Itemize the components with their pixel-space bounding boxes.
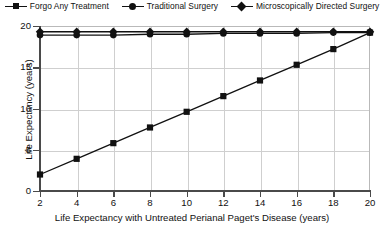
x-tick-label: 16 [284, 197, 310, 208]
x-tick-label: 10 [174, 197, 200, 208]
x-tick-label: 2 [27, 197, 53, 208]
x-tick-label: 12 [210, 197, 236, 208]
series-line-circle [40, 33, 370, 35]
y-axis-tick [33, 150, 39, 151]
x-tick-label: 4 [64, 197, 90, 208]
y-axis-tick [33, 67, 39, 68]
data-point-marker [294, 62, 300, 68]
x-tick-label: 6 [100, 197, 126, 208]
y-axis-tick [33, 191, 39, 192]
data-point-marker [37, 171, 43, 177]
data-point-marker [220, 93, 226, 99]
data-point-marker [74, 156, 80, 162]
x-tick-label: 14 [247, 197, 273, 208]
data-point-marker [147, 124, 153, 130]
x-tick-label: 20 [357, 197, 383, 208]
chart-container: Forgo Any Treatment Traditional Surgery … [0, 0, 384, 236]
data-point-marker [330, 46, 336, 52]
data-point-marker [329, 28, 337, 36]
x-tick-label: 18 [320, 197, 346, 208]
series-line-square [40, 33, 370, 175]
y-axis-tick [33, 109, 39, 110]
data-point-marker [184, 109, 190, 115]
x-tick-label: 8 [137, 197, 163, 208]
data-point-marker [110, 140, 116, 146]
data-point-marker [257, 77, 263, 83]
y-axis-tick [33, 26, 39, 27]
